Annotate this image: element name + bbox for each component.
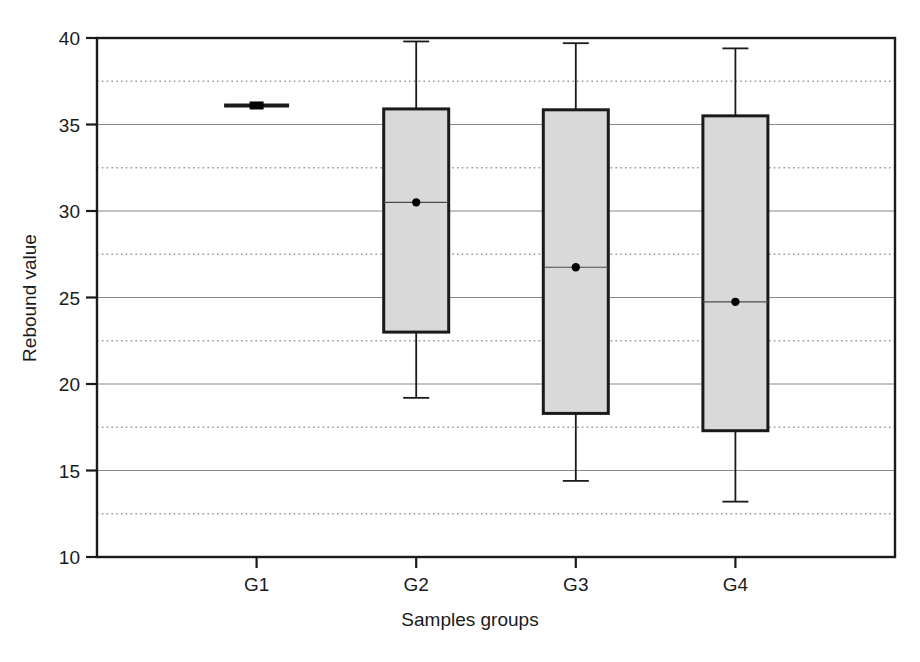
y-axis-tick-label: 30 <box>59 201 80 222</box>
box-iqr <box>543 110 608 414</box>
box-iqr <box>384 109 449 332</box>
x-axis-tick-label-g3: G3 <box>563 574 588 595</box>
median-marker <box>572 263 580 271</box>
x-axis-tick-label-g4: G4 <box>723 574 749 595</box>
y-axis-tick-label: 35 <box>59 115 80 136</box>
y-axis-tick-label: 10 <box>59 547 80 568</box>
y-axis-title: Rebound value <box>19 234 40 362</box>
x-axis-tick-label-g2: G2 <box>404 574 429 595</box>
y-axis-tick-label: 15 <box>59 461 80 482</box>
y-axis-tick-label: 20 <box>59 374 80 395</box>
chart-svg: 10152025303540 G1G2G3G4 Rebound value Sa… <box>0 0 920 662</box>
x-axis-title: Samples groups <box>401 609 538 630</box>
box-iqr <box>703 116 768 431</box>
y-axis-tick-label: 40 <box>59 28 80 49</box>
box-plot-chart: 10152025303540 G1G2G3G4 Rebound value Sa… <box>0 0 920 662</box>
median-marker <box>250 101 264 109</box>
y-axis: 10152025303540 <box>59 28 97 568</box>
median-marker <box>412 198 420 206</box>
y-axis-tick-label: 25 <box>59 288 80 309</box>
median-marker <box>731 298 739 306</box>
x-axis: G1G2G3G4 <box>244 557 749 595</box>
x-axis-tick-label-g1: G1 <box>244 574 269 595</box>
